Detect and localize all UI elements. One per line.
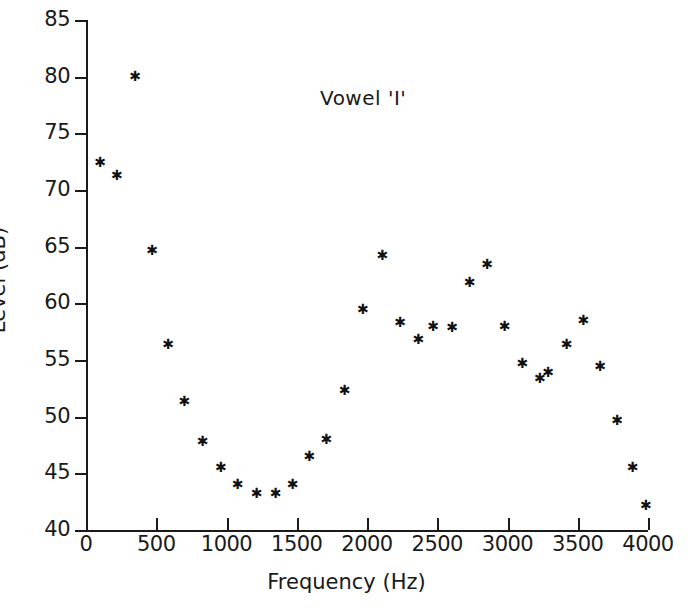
plot-area: 40455055606570758085 0500100015002000250… [86,20,648,532]
data-point-marker [250,487,263,500]
data-point-marker [196,435,209,448]
y-tick-label: 80 [44,64,70,88]
data-point-marker [481,258,494,271]
data-point-marker [412,333,425,346]
data-point-marker [178,395,191,408]
y-tick-label: 40 [44,517,70,541]
y-tick: 70 [75,190,86,192]
x-tick-label: 2500 [412,532,463,556]
data-point-marker [446,321,459,334]
x-axis-label: Frequency (Hz) [0,570,693,594]
x-tick: 1000 [227,518,229,530]
data-point-marker [394,316,407,329]
data-point-marker [231,478,244,491]
x-tick-label: 4000 [622,532,673,556]
data-point-marker [338,384,351,397]
chart-figure: Vowel 'I' 40455055606570758085 050010001… [0,0,693,613]
y-tick: 75 [75,133,86,135]
data-point-marker [129,70,142,83]
y-tick: 55 [75,360,86,362]
y-axis-label: Level (dB) [0,180,10,380]
y-tick: 65 [75,247,86,249]
data-point-marker [94,156,107,169]
x-tick-label: 500 [137,532,176,556]
x-tick-label: 1500 [271,532,322,556]
data-point-marker [110,169,123,182]
x-tick-label: 0 [80,532,93,556]
x-tick-label: 3500 [552,532,603,556]
data-point-marker [542,366,555,379]
x-tick: 2500 [437,518,439,530]
y-tick: 60 [75,303,86,305]
y-tick: 80 [75,77,86,79]
y-tick-label: 50 [44,404,70,428]
data-point-marker [162,338,175,351]
data-point-marker [626,461,639,474]
x-tick: 0 [86,518,88,530]
x-tick: 3500 [578,518,580,530]
x-tick-label: 1000 [201,532,252,556]
data-point-marker [146,244,159,257]
data-point-marker [286,478,299,491]
data-point-marker [269,487,282,500]
data-point-marker [427,320,440,333]
data-point-marker [463,276,476,289]
data-point-marker [214,461,227,474]
y-tick: 85 [75,20,86,22]
x-tick-label: 2000 [341,532,392,556]
data-point-marker [356,303,369,316]
data-point-marker [516,357,529,370]
y-tick-label: 45 [44,460,70,484]
data-point-marker [611,414,624,427]
x-tick-label: 3000 [482,532,533,556]
data-point-marker [303,450,316,463]
data-point-marker [560,338,573,351]
y-tick-label: 55 [44,347,70,371]
x-tick: 500 [156,518,158,530]
x-tick: 2000 [367,518,369,530]
y-axis-line [86,20,88,532]
data-point-marker [320,433,333,446]
y-tick: 45 [75,473,86,475]
x-tick: 4000 [648,518,650,530]
x-tick: 1500 [297,518,299,530]
data-point-marker [498,320,511,333]
y-tick-label: 85 [44,7,70,31]
y-tick-label: 75 [44,120,70,144]
data-point-marker [594,360,607,373]
y-tick-label: 65 [44,234,70,258]
data-point-marker [639,499,652,512]
data-point-marker [376,249,389,262]
y-tick-label: 70 [44,177,70,201]
y-tick-label: 60 [44,290,70,314]
y-tick: 50 [75,417,86,419]
x-tick: 3000 [508,518,510,530]
data-point-marker [577,314,590,327]
